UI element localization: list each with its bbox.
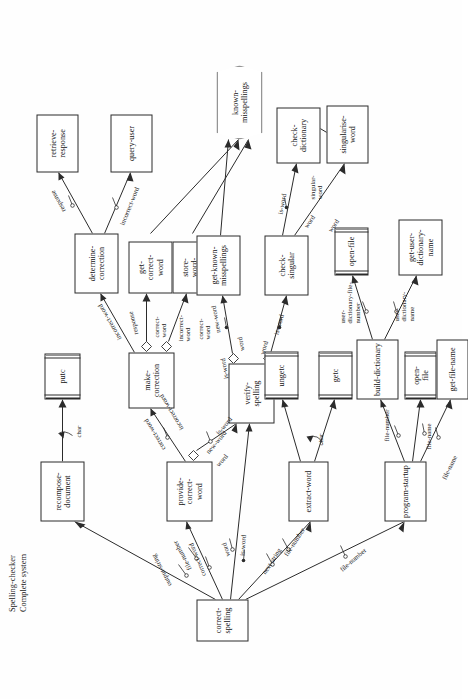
node-putc[interactable]: putc	[44, 353, 80, 399]
node-label: get-file-name	[447, 347, 456, 391]
flow-label-text: file-name	[424, 423, 431, 449]
node-get-known-misspellings[interactable]: get-known- misspellings	[196, 235, 240, 295]
node-build-dictionary[interactable]: build-dictionary	[356, 339, 398, 399]
node-getc[interactable]: getc	[318, 351, 352, 399]
node-label: getc	[330, 368, 339, 382]
node-label: get-user- dictionary- name	[406, 229, 434, 265]
flow-label-text: incorrect-word	[176, 315, 190, 341]
node-known-misspellings[interactable]: known- misspellings	[216, 65, 262, 139]
node-determine-correction[interactable]: determine- correction	[74, 233, 118, 293]
flow-label-text: singular-word	[308, 175, 322, 199]
flow-label-word-verify-known: word	[236, 336, 246, 351]
flow-label-correct-word-make: correct-word	[152, 303, 167, 337]
node-label: singularise- word	[338, 115, 356, 153]
node-provide-correct-word[interactable]: provide- correct- word	[166, 461, 212, 521]
node-ungetc[interactable]: ungetc	[264, 351, 298, 399]
flow-label-char-putc: char	[74, 425, 81, 437]
flow-label-is-word-root: is-word	[238, 534, 247, 555]
node-get-user-dictionary-name[interactable]: get-user- dictionary- name	[398, 219, 442, 275]
flow-label-text: user-dictionary-file-number	[338, 282, 360, 323]
flow-label-text: is-word	[238, 534, 246, 555]
node-get-file-name[interactable]: get-file-name	[436, 339, 468, 399]
node-label: recompose- document	[53, 472, 71, 510]
flow-label-correct-word-store: correct-word	[196, 305, 211, 339]
flow-label-text: correct-word	[196, 318, 210, 339]
node-label: check- dictionary	[289, 118, 307, 151]
node-query-user[interactable]: query-user	[110, 114, 152, 172]
node-open-file[interactable]: open- file	[404, 351, 436, 399]
flow-label-text: char	[74, 425, 81, 437]
node-check-singular[interactable]: check- singular	[264, 235, 308, 295]
flow-label-text: correct-word	[152, 316, 166, 337]
node-label: verify- spelling	[242, 380, 260, 406]
flow-label-text: char	[316, 433, 323, 445]
flow-label-user-dictionary-file-number: user-dictionary-file-number	[338, 281, 360, 323]
node-label: get- correct- word	[136, 254, 164, 279]
node-program-startup[interactable]: program-startup	[384, 461, 426, 521]
node-check-dictionary[interactable]: check- dictionary	[276, 107, 320, 163]
flow-label-user-dictionary-name-build: user-dictionary-name	[392, 279, 414, 321]
node-label: putc	[57, 369, 66, 383]
node-label: program-startup	[400, 465, 409, 518]
flow-label-text: user-dictionary-name	[392, 291, 414, 321]
flow-label-singular-word-check: singular-word	[308, 165, 323, 199]
node-label: build-dictionary	[372, 343, 381, 396]
node-label: make- correction	[142, 363, 160, 396]
node-label: check- singular	[277, 252, 295, 278]
node-get-correct-word[interactable]: get- correct- word	[128, 241, 172, 293]
node-recompose-document[interactable]: recompose- document	[40, 461, 84, 521]
node-label: retrieve- response	[48, 129, 66, 158]
flow-label-text: file-number	[382, 409, 389, 441]
node-label: correct-spelling	[213, 602, 231, 638]
node-label: extract-word	[303, 470, 312, 512]
node-label: open-file	[346, 236, 355, 266]
flow-label-char-extract: char	[316, 433, 323, 445]
node-correct-spelling[interactable]: correct-spelling	[196, 599, 248, 641]
node-label: ungetc	[276, 364, 285, 386]
node-extract-word[interactable]: extract-word	[288, 461, 328, 521]
node-label: provide- correct- word	[175, 477, 203, 505]
flow-label-file-name-open: file-name	[424, 423, 431, 449]
node-singularise-word[interactable]: singularise- word	[326, 105, 368, 163]
node-retrieve-response[interactable]: retrieve- response	[36, 114, 78, 172]
node-open-dictionary-file[interactable]: open-file	[334, 227, 368, 275]
flow-label-file-number-build: file-number	[382, 407, 389, 441]
flow-label-incorrect-word-store: incorrect-word	[176, 307, 191, 341]
node-label: get-known- misspellings	[209, 245, 227, 286]
node-label: known- misspellings	[230, 76, 248, 129]
node-label: open- file	[411, 366, 429, 385]
node-label: query-user	[126, 126, 135, 161]
node-label: determine- correction	[87, 245, 105, 280]
